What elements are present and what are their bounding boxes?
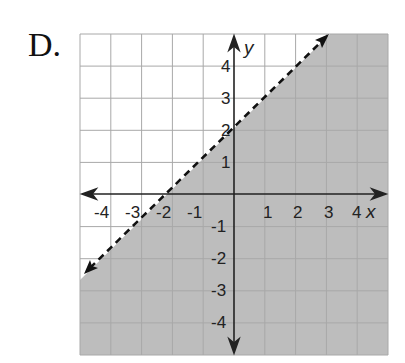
- svg-text:-2: -2: [211, 249, 226, 268]
- svg-text:4: 4: [352, 203, 361, 222]
- y-axis-label: y: [242, 37, 255, 58]
- svg-text:-4: -4: [94, 203, 109, 222]
- coordinate-plane: -4 -3 -2 -1 1 2 3 4 x 4 3 2 1 -1 -2 -3 -…: [0, 0, 405, 363]
- svg-text:4: 4: [221, 57, 230, 76]
- svg-text:-3: -3: [125, 203, 140, 222]
- svg-text:-1: -1: [187, 203, 202, 222]
- svg-text:2: 2: [293, 203, 302, 222]
- svg-text:3: 3: [221, 89, 230, 108]
- svg-text:1: 1: [221, 153, 230, 172]
- svg-text:-1: -1: [211, 217, 226, 236]
- svg-text:3: 3: [324, 203, 333, 222]
- svg-text:-2: -2: [156, 203, 171, 222]
- svg-text:2: 2: [221, 121, 230, 140]
- svg-text:-4: -4: [211, 313, 226, 332]
- svg-text:-3: -3: [211, 281, 226, 300]
- x-axis-label: x: [365, 201, 377, 222]
- svg-text:1: 1: [263, 203, 272, 222]
